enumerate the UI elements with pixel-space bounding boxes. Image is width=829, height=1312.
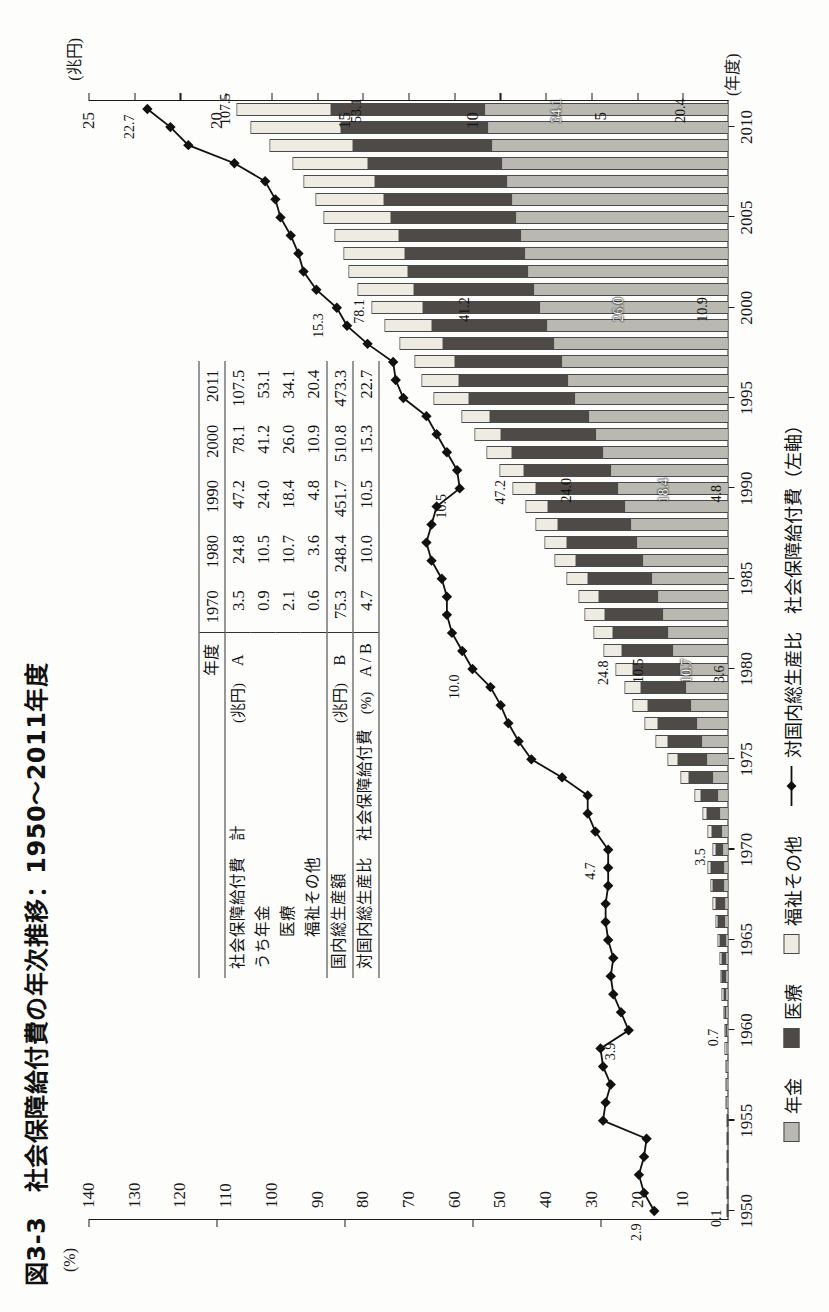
legend-label-gdp-ratio: 対国内総生産比 社会保障給付費（左軸） (778, 416, 804, 758)
table-col-header-1980: 1980 (199, 526, 225, 581)
legend-item-welfare: 福祉その他 (778, 836, 804, 954)
right-axis-unit: (兆円) (60, 38, 84, 81)
left-axis-tick (600, 1220, 601, 1227)
gdp-ratio-marker (457, 646, 467, 656)
gdp-ratio-marker (556, 772, 566, 782)
right-axis-tick-label: 70 (398, 1191, 418, 1208)
table-cell: 510.8 (326, 416, 352, 471)
gdp-ratio-marker (431, 429, 441, 439)
left-axis-tick-label: 25 (78, 112, 98, 129)
table-cell: 0.6 (300, 581, 326, 633)
gdp-ratio-marker (597, 1061, 607, 1071)
gdp-ratio-marker (421, 537, 431, 547)
line-label-2011: 22.7 (121, 115, 137, 140)
gdp-ratio-marker (633, 1170, 643, 1180)
legend-label-welfare: 福祉その他 (778, 836, 804, 926)
right-axis-tick (88, 93, 89, 100)
table-corner-label: 年度 (199, 633, 225, 681)
gdp-ratio-marker (441, 592, 451, 602)
gdp-ratio-marker (142, 104, 152, 114)
left-axis-tick-label: 5 (590, 112, 610, 121)
table-cell: 451.7 (326, 471, 352, 526)
gdp-ratio-marker (615, 1007, 625, 1017)
table-cell: 10.7 (275, 526, 300, 581)
table-row-code (300, 633, 326, 681)
segment-label-pension-1990: 24.0 (558, 478, 574, 503)
x-axis-tick-label: 1970 (736, 833, 756, 867)
x-axis-unit: (年度) (718, 53, 742, 96)
legend-swatch-medical (783, 1028, 799, 1048)
table-row: 対国内総生産比 社会保障給付費(%)A / B4.710.010.515.322… (352, 361, 378, 978)
gdp-ratio-marker (602, 844, 612, 854)
gdp-ratio-marker (441, 447, 451, 457)
x-axis-tick-label: 1950 (736, 1194, 756, 1228)
right-axis-tick-label: 60 (444, 1191, 464, 1208)
right-axis-tick-label: 90 (307, 1191, 327, 1208)
table-col-header-1970: 1970 (199, 581, 225, 633)
gdp-ratio-marker (436, 574, 446, 584)
x-axis-tick-label: 1975 (736, 742, 756, 776)
x-axis-tick-label: 1990 (736, 471, 756, 505)
gdp-ratio-marker (441, 610, 451, 620)
right-axis-tick (637, 93, 638, 100)
segment-label-medical-1980: 10.7 (678, 659, 694, 684)
bar-total-label-1960: 0.7 (705, 1029, 721, 1047)
table-row-code (250, 633, 275, 681)
gdp-ratio-marker (259, 176, 269, 186)
gdp-ratio-marker (229, 158, 239, 168)
table-row: 医療2.110.718.426.034.1 (275, 361, 300, 978)
right-axis-tick-label: 130 (124, 1183, 144, 1209)
page-title: 図3-3 社会保障給付費の年次推移：1950～2011年度 (16, 663, 51, 1286)
gdp-ratio-marker (526, 754, 536, 764)
right-axis-tick (545, 93, 546, 100)
chart-legend: 年金 医療 福祉その他 対国内総 (778, 416, 804, 1142)
x-axis-tick (728, 216, 734, 217)
right-axis-tick (271, 93, 272, 100)
table-cell: 2.1 (275, 581, 300, 633)
table-cell: 10.9 (300, 416, 326, 471)
gdp-ratio-marker (605, 971, 615, 981)
segment-label-medical-2000: 26.0 (610, 297, 626, 322)
segment-label-medical-1990: 18.4 (655, 478, 671, 503)
table-col-header-2011: 2011 (199, 361, 225, 416)
table-cell: 4.7 (352, 581, 378, 633)
gdp-ratio-marker (602, 935, 612, 945)
legend-label-pension: 年金 (778, 1078, 804, 1114)
segment-label-pension-2000: 41.2 (456, 297, 472, 322)
right-axis-tick (499, 93, 500, 100)
line-label-1950: 2.9 (628, 1223, 644, 1241)
table-row-label: 社会保障給付費 計 (225, 725, 251, 978)
gdp-ratio-marker (602, 881, 612, 891)
table-cell: 15.3 (352, 416, 378, 471)
legend-swatch-welfare (783, 934, 799, 954)
table-cell: 47.2 (225, 471, 251, 526)
chart-plot-area: 2520151051401301201101009080706050403020… (88, 100, 728, 1220)
table-row-label: 医療 (275, 725, 300, 978)
legend-swatch-pension (783, 1122, 799, 1142)
table-cell: 10.5 (352, 471, 378, 526)
right-axis-tick-label: 30 (581, 1191, 601, 1208)
table-cell: 473.3 (326, 361, 352, 416)
table-cell: 78.1 (225, 416, 251, 471)
table-row-unit (250, 681, 275, 725)
gdp-ratio-marker (285, 230, 295, 240)
legend-item-gdp-ratio-line: 対国内総生産比 社会保障給付費（左軸） (778, 416, 804, 806)
gdp-ratio-marker (608, 953, 618, 963)
table-row-code: A (225, 633, 251, 681)
table-cell: 26.0 (275, 416, 300, 471)
right-axis-tick-label: 100 (261, 1183, 281, 1209)
inset-data-table: 年度19701980199020002011社会保障給付費 計(兆円)A3.52… (196, 357, 381, 982)
x-axis-tick (728, 126, 734, 127)
gdp-ratio-marker (605, 1079, 615, 1089)
x-axis-tick (728, 758, 734, 759)
line-label-2000: 15.3 (310, 313, 326, 338)
table-row-unit (275, 681, 300, 725)
x-axis-tick (728, 307, 734, 308)
table-header-row: 年度19701980199020002011 (199, 361, 225, 978)
bar-total-label-1970: 3.5 (692, 848, 708, 866)
table-cell: 3.6 (300, 526, 326, 581)
x-axis-tick (728, 487, 734, 488)
x-axis-tick-label: 2005 (736, 200, 756, 234)
table-col-header-2000: 2000 (199, 416, 225, 471)
x-axis-tick-label: 2000 (736, 291, 756, 325)
